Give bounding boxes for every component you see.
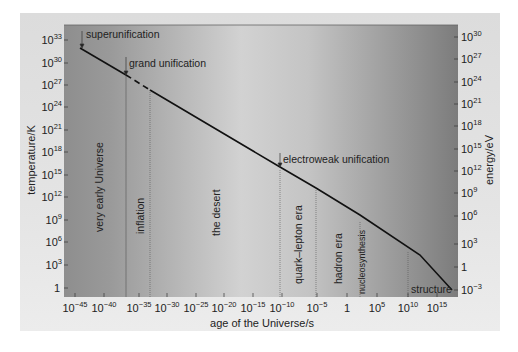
plot-area xyxy=(64,25,458,297)
svg-text:1030: 1030 xyxy=(461,29,482,43)
svg-text:1: 1 xyxy=(461,261,467,273)
chart: superunification grand unification elect… xyxy=(0,0,518,352)
svg-text:10−20: 10−20 xyxy=(212,300,237,314)
svg-text:10−45: 10−45 xyxy=(63,300,88,314)
svg-text:103: 103 xyxy=(461,236,477,250)
x-axis-label: age of the Universe/s xyxy=(210,317,314,329)
svg-text:1018: 1018 xyxy=(461,118,482,132)
y-axis-label-left: temperature/K xyxy=(25,124,37,194)
era-hadron: hadron era xyxy=(332,233,344,284)
svg-text:10−5: 10−5 xyxy=(307,300,328,314)
annotation-grand-unification: grand unification xyxy=(129,57,206,69)
svg-text:10−30: 10−30 xyxy=(155,300,180,314)
era-quark-lepton: quark–lepton era xyxy=(292,205,304,284)
svg-text:10−10: 10−10 xyxy=(270,300,295,314)
y-left-tick-labels: 1033 1030 1027 1024 1021 1018 1015 1012 … xyxy=(41,32,62,294)
svg-text:1021: 1021 xyxy=(461,96,482,110)
svg-text:10−35: 10−35 xyxy=(127,300,152,314)
svg-text:109: 109 xyxy=(46,212,62,226)
svg-text:1027: 1027 xyxy=(41,77,62,91)
svg-text:10−3: 10−3 xyxy=(461,282,482,296)
svg-text:10−15: 10−15 xyxy=(241,300,266,314)
annotation-electroweak: electroweak unification xyxy=(283,153,389,165)
svg-text:109: 109 xyxy=(461,185,477,199)
svg-text:1015: 1015 xyxy=(41,167,62,181)
svg-text:1030: 1030 xyxy=(41,55,62,69)
svg-text:1024: 1024 xyxy=(461,74,482,88)
era-structure: structure xyxy=(411,283,452,295)
svg-text:1015: 1015 xyxy=(427,300,448,314)
svg-text:1012: 1012 xyxy=(461,163,482,177)
svg-text:1021: 1021 xyxy=(41,122,62,136)
era-the-desert: the desert xyxy=(210,189,222,236)
svg-text:1: 1 xyxy=(54,282,60,294)
svg-text:105: 105 xyxy=(369,300,385,314)
annotation-superunification: superunification xyxy=(86,28,160,40)
era-nucleosynthesis: nucleosynthesis xyxy=(357,229,367,294)
svg-text:106: 106 xyxy=(461,208,477,222)
y-axis-label-right: energy/eV xyxy=(483,134,495,185)
svg-text:1015: 1015 xyxy=(461,141,482,155)
y-right-tick-labels: 1030 1027 1024 1021 1018 1015 1012 109 1… xyxy=(461,29,482,296)
svg-text:1: 1 xyxy=(344,302,350,314)
svg-text:103: 103 xyxy=(46,257,62,271)
svg-text:1033: 1033 xyxy=(41,32,62,46)
svg-text:1012: 1012 xyxy=(41,189,62,203)
svg-text:1010: 1010 xyxy=(398,300,419,314)
era-inflation: inflation xyxy=(134,198,146,234)
svg-text:1027: 1027 xyxy=(461,51,482,65)
era-very-early-universe: very early Universe xyxy=(93,142,105,232)
svg-text:106: 106 xyxy=(46,234,62,248)
svg-text:10−40: 10−40 xyxy=(92,300,117,314)
svg-text:1024: 1024 xyxy=(41,99,62,113)
svg-text:10−25: 10−25 xyxy=(184,300,209,314)
svg-text:1018: 1018 xyxy=(41,144,62,158)
x-tick-labels: 10−45 10−40 10−35 10−30 10−25 10−20 10−1… xyxy=(63,300,448,314)
